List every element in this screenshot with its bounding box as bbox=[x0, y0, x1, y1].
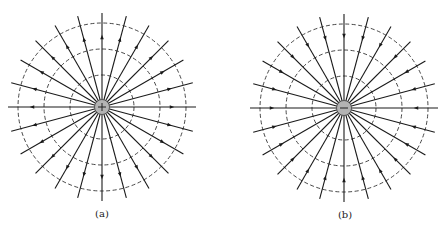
arrowhead-icon bbox=[279, 69, 284, 73]
arrowhead-icon bbox=[411, 125, 416, 128]
arrowhead-icon bbox=[32, 88, 37, 91]
field-line bbox=[253, 108, 344, 132]
arrowhead-icon bbox=[404, 69, 409, 73]
field-line bbox=[102, 107, 193, 131]
arrowhead-icon bbox=[414, 106, 419, 110]
arrowhead-icon bbox=[272, 87, 277, 90]
arrowhead-icon bbox=[83, 37, 86, 42]
field-line bbox=[78, 107, 102, 198]
arrowhead-icon bbox=[30, 105, 35, 109]
arrowhead-icon bbox=[134, 165, 138, 170]
field-line bbox=[102, 16, 126, 107]
arrowhead-icon bbox=[134, 44, 138, 49]
arrowhead-icon bbox=[32, 123, 37, 126]
arrowhead-icon bbox=[404, 143, 409, 147]
arrowhead-icon bbox=[305, 168, 309, 173]
arrowhead-icon bbox=[361, 175, 364, 180]
panel-b-negative-charge bbox=[250, 14, 438, 202]
arrowhead-icon bbox=[305, 43, 309, 48]
arrowhead-icon bbox=[272, 125, 277, 128]
field-line bbox=[344, 108, 368, 199]
arrowhead-icon bbox=[83, 172, 86, 177]
arrowhead-icon bbox=[170, 105, 175, 109]
arrowhead-icon bbox=[160, 139, 165, 143]
arrowhead-icon bbox=[323, 175, 326, 180]
field-line bbox=[78, 16, 102, 107]
arrowhead-icon bbox=[100, 35, 104, 40]
arrowhead-icon bbox=[342, 34, 346, 39]
panel-a-positive-charge bbox=[8, 13, 196, 201]
arrowhead-icon bbox=[167, 88, 172, 91]
arrowhead-icon bbox=[323, 36, 326, 41]
arrowhead-icon bbox=[270, 106, 275, 110]
field-line bbox=[344, 84, 435, 108]
arrowhead-icon bbox=[66, 44, 70, 49]
arrowhead-icon bbox=[279, 143, 284, 147]
arrowhead-icon bbox=[39, 71, 44, 75]
panel-b-caption: (b) bbox=[338, 209, 352, 220]
field-line bbox=[320, 17, 344, 108]
field-line bbox=[344, 17, 368, 108]
panel-a-caption: (a) bbox=[95, 208, 109, 219]
field-line bbox=[11, 107, 102, 131]
arrowhead-icon bbox=[411, 87, 416, 90]
arrowhead-icon bbox=[100, 175, 104, 180]
arrowhead-icon bbox=[39, 139, 44, 143]
arrowhead-icon bbox=[342, 178, 346, 183]
arrowhead-icon bbox=[118, 172, 121, 177]
field-line bbox=[320, 108, 344, 199]
arrowhead-icon bbox=[379, 168, 383, 173]
arrowhead-icon bbox=[361, 36, 364, 41]
field-lines-figure bbox=[0, 0, 446, 228]
arrowhead-icon bbox=[118, 37, 121, 42]
field-line bbox=[102, 83, 193, 107]
field-line bbox=[102, 107, 126, 198]
field-line bbox=[11, 83, 102, 107]
diagram-stage: (a) (b) bbox=[0, 0, 446, 228]
arrowhead-icon bbox=[167, 123, 172, 126]
arrowhead-icon bbox=[379, 43, 383, 48]
arrowhead-icon bbox=[160, 71, 165, 75]
arrowhead-icon bbox=[66, 165, 70, 170]
field-line bbox=[253, 84, 344, 108]
field-line bbox=[344, 108, 435, 132]
